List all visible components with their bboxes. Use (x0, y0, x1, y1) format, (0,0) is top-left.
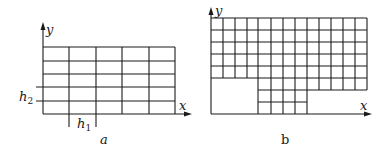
y-axis-arrow-icon (41, 22, 46, 30)
figure-b: y x b (209, 3, 373, 147)
y-axis-arrow-icon (209, 7, 214, 15)
y-axis-label: y (45, 22, 54, 37)
h1-label: h1 (77, 116, 91, 133)
grid-b-upper (211, 18, 367, 78)
caption-b: b (281, 132, 289, 147)
grid-diagrams: y x h2 h1 a (0, 0, 385, 153)
y-axis-label: y (214, 3, 223, 18)
x-axis-label: x (360, 98, 368, 113)
x-axis-label: x (179, 98, 187, 113)
grid-a-horizontal-lines (36, 47, 175, 101)
figure-a: y x h2 h1 a (19, 22, 192, 147)
caption-a: a (100, 132, 108, 147)
h2-label: h2 (19, 89, 33, 106)
